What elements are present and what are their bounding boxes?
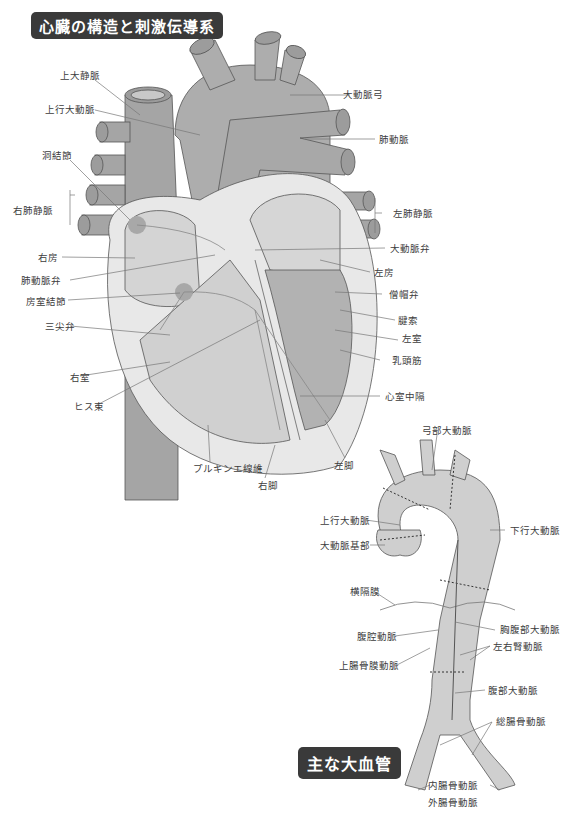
label-diaphragm: 横隔膜: [350, 586, 380, 597]
label-svc: 上大静脈: [60, 70, 100, 81]
label-internal-iliac: 内腸骨動脈: [428, 780, 478, 791]
label-descending: 下行大動脈: [510, 525, 560, 536]
label-tricuspid: 三尖弁: [45, 321, 75, 332]
label-arch: 弓部大動脈: [422, 425, 472, 436]
label-root: 大動脈基部: [320, 540, 370, 551]
label-septum: 心室中隔: [385, 391, 425, 402]
label-ascending-aorta: 上行大動脈: [45, 104, 95, 115]
label-sa-node: 洞結節: [42, 150, 72, 161]
label-pulm-artery: 肺動脈: [379, 134, 409, 145]
vessels-section-title: 主な大血管: [298, 747, 401, 779]
label-his-bundle: ヒス束: [74, 401, 104, 412]
label-sma: 上腸骨膜動脈: [339, 660, 399, 671]
label-right-pulm-vein: 右肺静脈: [13, 205, 53, 216]
label-left-bundle: 左脚: [334, 460, 354, 471]
label-purkinje: プルキンエ線維: [193, 463, 263, 474]
label-abdominal: 腹部大動脈: [488, 685, 538, 696]
label-right-ventricle: 右室: [70, 372, 90, 383]
label-chordae: 腱索: [398, 315, 418, 326]
label-mitral: 僧帽弁: [389, 289, 419, 300]
label-common-iliac: 総腸骨動脈: [496, 716, 546, 727]
label-external-iliac: 外腸骨動脈: [428, 797, 478, 808]
label-thoracoabdominal: 胸腹部大動脈: [500, 624, 560, 635]
label-av-node: 房室結節: [26, 296, 66, 307]
label-pulm-valve: 肺動脈弁: [21, 275, 61, 286]
label-ascending: 上行大動脈: [320, 515, 370, 526]
heart-section-title: 心臓の構造と刺激伝導系: [31, 12, 223, 39]
label-aortic-valve: 大動脈弁: [390, 243, 430, 254]
label-left-pulm-vein: 左肺静脈: [393, 208, 433, 219]
label-left-ventricle: 左室: [402, 333, 422, 344]
label-right-atrium: 右房: [38, 252, 58, 263]
label-left-atrium: 左房: [374, 267, 394, 278]
label-right-bundle: 右脚: [258, 480, 278, 491]
label-celiac: 腹腔動脈: [357, 631, 397, 642]
label-aortic-arch: 大動脈弓: [343, 89, 383, 100]
label-papillary: 乳頭筋: [392, 355, 422, 366]
label-renal: 左右腎動脈: [493, 641, 543, 652]
